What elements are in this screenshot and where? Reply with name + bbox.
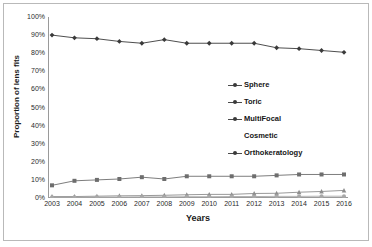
x-axis-tick-label: 2014 [291,200,307,207]
y-axis-tick-label: 20% [31,158,45,166]
data-point-marker [297,194,301,198]
data-point-marker [50,195,54,198]
x-axis-tick-label: 2011 [224,200,239,207]
legend-item-label: Sphere [244,80,269,89]
data-point-marker [50,33,55,38]
data-point-marker [342,172,346,176]
legend-item-label: Orthokeratology [244,148,302,157]
data-point-marker [320,194,324,198]
legend-item-label: Toric [244,97,262,106]
x-axis-tick-label: 2013 [269,200,285,207]
data-point-marker [297,46,302,51]
x-axis-tick-label: 2009 [179,200,195,207]
data-point-marker [117,39,122,44]
data-point-marker [207,41,212,46]
x-axis-tick-label: 2012 [246,200,262,207]
legend-item[interactable]: Cosmetic [228,131,348,141]
data-point-marker [252,174,256,178]
data-point-marker [297,172,301,176]
y-axis-tick-label: 40% [31,122,45,130]
data-point-marker [207,174,211,178]
legend-marker-icon [228,149,242,158]
data-point-marker [140,175,144,179]
legend-item[interactable]: Orthokeratology [228,148,348,158]
legend-marker-icon [228,132,242,141]
x-axis-tick-label: 2004 [67,200,83,207]
chart-legend: SphereToricMultiFocalCosmeticOrthokerato… [228,80,348,165]
x-axis-tick-label: 2010 [201,200,217,207]
data-point-marker [95,36,100,41]
data-point-marker [274,45,279,50]
data-point-marker [72,179,76,183]
x-axis-tick-label: 2006 [112,200,128,207]
y-axis-tick-label: 90% [31,31,45,39]
x-axis-tick-label: 2003 [44,200,60,207]
y-axis-tick-label: 10% [31,176,45,184]
data-point-marker [139,41,144,46]
legend-marker-icon [228,98,242,107]
data-point-marker [162,177,166,181]
y-axis-tick-label: 70% [31,67,45,75]
legend-item[interactable]: Toric [228,97,348,107]
data-point-marker [342,194,346,198]
legend-item[interactable]: MultiFocal [228,114,348,124]
y-axis-tick-label: 80% [31,49,45,57]
data-point-marker [184,41,189,46]
data-point-marker [95,178,99,182]
x-axis-tick-label: 2007 [134,200,150,207]
legend-item[interactable]: Sphere [228,80,348,90]
x-axis-tick-label: 2016 [336,200,352,207]
y-axis-tick-label: 100% [27,13,45,21]
chart-figure: 0%10%20%30%40%50%60%70%80%90%100% Propor… [0,0,372,247]
data-point-marker [342,50,347,55]
data-point-marker [50,183,54,187]
data-point-marker [185,174,189,178]
data-point-marker [319,48,324,53]
y-axis-title: Proportion of lens fits [12,37,21,157]
x-axis-title: Years [48,213,348,223]
data-point-marker [95,195,99,198]
legend-marker-icon [228,81,242,90]
x-axis-tick-labels: 2003200420052006200720082009201020112012… [48,200,348,212]
data-point-marker [72,195,76,198]
legend-marker-icon [228,115,242,124]
data-point-marker [230,174,234,178]
y-axis-tick-label: 50% [31,104,45,112]
data-point-marker [252,41,257,46]
data-point-marker [117,177,121,181]
data-point-marker [72,35,77,40]
y-axis-tick-label: 60% [31,85,45,93]
data-point-marker [320,172,324,176]
data-point-marker [275,173,279,177]
legend-item-label: MultiFocal [244,114,281,123]
data-point-marker [229,41,234,46]
x-axis-tick-label: 2015 [314,200,330,207]
y-axis-tick-label: 30% [31,140,45,148]
legend-item-label: Cosmetic [244,131,278,140]
data-point-marker [162,37,167,42]
x-axis-tick-label: 2005 [89,200,105,207]
x-axis-tick-label: 2008 [157,200,173,207]
